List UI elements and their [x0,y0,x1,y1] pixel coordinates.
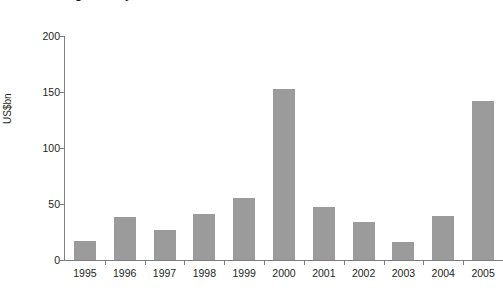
bar [392,242,414,260]
bar [472,101,494,260]
x-tick-mark [145,261,146,265]
x-tick-mark [105,261,106,265]
x-axis-label: 2005 [463,268,503,279]
y-tick-mark [60,148,65,149]
x-tick-mark [463,261,464,265]
bar [193,214,215,260]
y-tick-label: 150 [26,87,60,98]
bar [432,216,454,260]
x-axis-label: 2000 [264,268,304,279]
y-tick-label: 100 [26,143,60,154]
y-tick-label: 0 [26,255,60,266]
bar-chart: US$bn 050100150200 199519961997199819992… [0,0,503,293]
bar [353,222,375,260]
x-axis-label: 1995 [65,268,105,279]
x-axis-line [64,260,503,261]
x-axis-label: 2001 [304,268,344,279]
x-tick-mark [344,261,345,265]
y-tick-label: 200 [26,31,60,42]
x-tick-mark [304,261,305,265]
y-tick-mark [60,92,65,93]
y-axis-title: US$bn [2,93,13,124]
bar [233,198,255,260]
y-tick-label: 50 [26,199,60,210]
x-axis-label: 2003 [384,268,424,279]
y-tick-mark [60,260,65,261]
x-axis-label: 1996 [105,268,145,279]
x-tick-mark [224,261,225,265]
bar [114,217,136,260]
x-axis-label: 2004 [423,268,463,279]
bar [154,230,176,260]
x-tick-mark [384,261,385,265]
x-axis-label: 1998 [184,268,224,279]
x-axis-label: 1997 [145,268,185,279]
x-tick-mark [423,261,424,265]
x-tick-mark [184,261,185,265]
bar [273,89,295,260]
bar [74,241,96,260]
y-tick-mark [60,204,65,205]
x-axis-label: 1999 [224,268,264,279]
y-tick-mark [60,36,65,37]
x-tick-mark [264,261,265,265]
bar [313,207,335,260]
x-axis-label: 2002 [344,268,384,279]
